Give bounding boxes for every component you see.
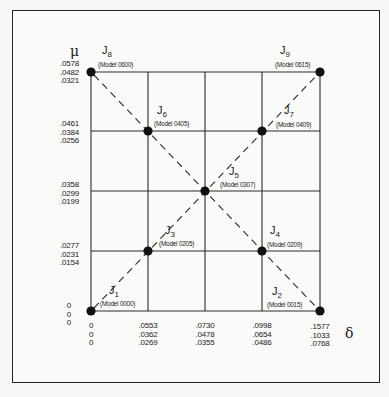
node-label-j9: J9 [280,44,290,59]
node-label-j3: J3 [165,224,175,239]
x-axis-name: δ [345,325,353,341]
y-axis-name: μ [70,43,79,59]
node-model-j9: (Model 0615) [275,61,310,68]
y-tick-3: .0461.0384.0256 [60,120,79,146]
x-tick-4: .1577.1033.0768 [302,323,338,349]
node-label-j1: J1 [109,284,119,299]
node-model-j5: (Model 0307) [220,181,255,188]
node-label-j7: J7 [284,104,294,119]
node-label-j2: J2 [272,285,282,300]
node-model-j6: (Model 0405) [154,120,189,127]
node-label-j5: J5 [229,165,239,180]
node-label-j6: J6 [157,104,167,119]
x-tick-3: .0998.0654.0486 [244,322,280,348]
x-tick-1: .0553.0362.0269 [130,322,166,348]
node-model-j1: (Model 0000) [100,300,135,307]
node-model-j7: (Model 0409) [276,121,311,128]
node-label-j8: J8 [102,44,112,59]
y-tick-4: .0578.0482.0321 [60,60,79,86]
y-tick-2: .0358.0299.0199 [60,181,79,207]
node-label-j4: J4 [270,224,280,239]
node-model-j4: (Model 0209) [267,241,302,248]
y-tick-1: .0277.0231.0154 [60,242,79,268]
x-tick-2: .0730.0478.0355 [187,322,223,348]
node-model-j2: (Model 0015) [267,301,302,308]
y-tick-0: 000 [67,302,71,328]
node-model-j3: (Model 0205) [159,240,194,247]
x-tick-0: 000 [84,322,98,348]
node-model-j8: (Model 0600) [98,61,133,68]
